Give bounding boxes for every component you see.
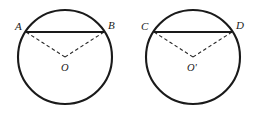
label-point-c: C [141,20,149,32]
label-point-a: A [14,20,22,32]
left-radius-ob [65,32,104,57]
right-radius-oc [154,32,193,57]
left-radius-oa [26,32,65,57]
label-center-o-prime: O' [187,62,198,73]
label-point-b: B [108,19,115,31]
geometry-figure: A B O C D O' [0,0,262,114]
left-circle-group: A B O [14,10,115,104]
figure-canvas: A B O C D O' [0,0,262,114]
label-point-d: D [235,19,244,31]
label-center-o: O [61,62,69,73]
right-radius-od [193,32,232,57]
right-circle-group: C D O' [141,10,244,104]
